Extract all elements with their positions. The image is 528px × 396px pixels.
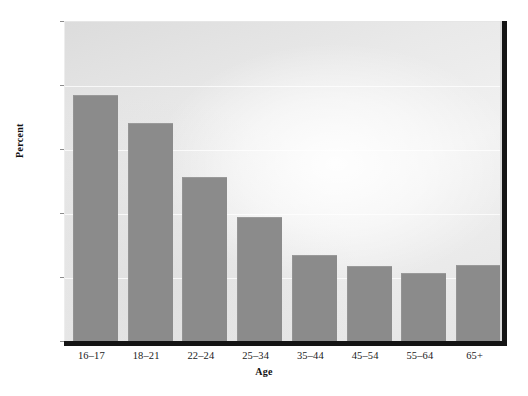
x-tick-label: 25–34	[228, 350, 283, 361]
x-tick-label: 18–21	[119, 350, 174, 361]
x-tick-label: 16–17	[64, 350, 119, 361]
bar	[456, 265, 501, 343]
x-axis-line	[64, 341, 507, 346]
plot-area	[64, 21, 502, 343]
x-tick-label: 35–44	[283, 350, 338, 361]
x-tick-label: 55–64	[393, 350, 448, 361]
bar	[73, 95, 118, 343]
bar	[347, 266, 392, 343]
gridline	[65, 86, 502, 87]
bar	[292, 255, 337, 343]
y-axis-right-line	[502, 21, 507, 346]
x-tick-label: 22–24	[174, 350, 229, 361]
x-tick-label: 45–54	[338, 350, 393, 361]
x-tick-label: 65+	[447, 350, 502, 361]
y-axis-title: Percent	[14, 123, 25, 158]
bar	[401, 273, 446, 343]
bar	[237, 217, 282, 343]
bar-chart-figure: Percent 0.000.020.040.060.080.10 16–1718…	[0, 0, 528, 396]
bar	[128, 123, 173, 343]
bar	[182, 177, 227, 343]
x-axis-title: Age	[0, 366, 528, 377]
